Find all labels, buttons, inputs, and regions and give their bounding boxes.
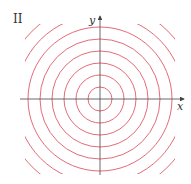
y-axis-label: y xyxy=(89,15,95,26)
x-axis-label: x xyxy=(177,101,183,112)
contour-plot xyxy=(0,0,191,184)
panel-label: II xyxy=(13,13,22,25)
contour-figure: II y x xyxy=(0,0,191,184)
level-curves xyxy=(4,3,191,184)
level-curve xyxy=(4,3,191,184)
